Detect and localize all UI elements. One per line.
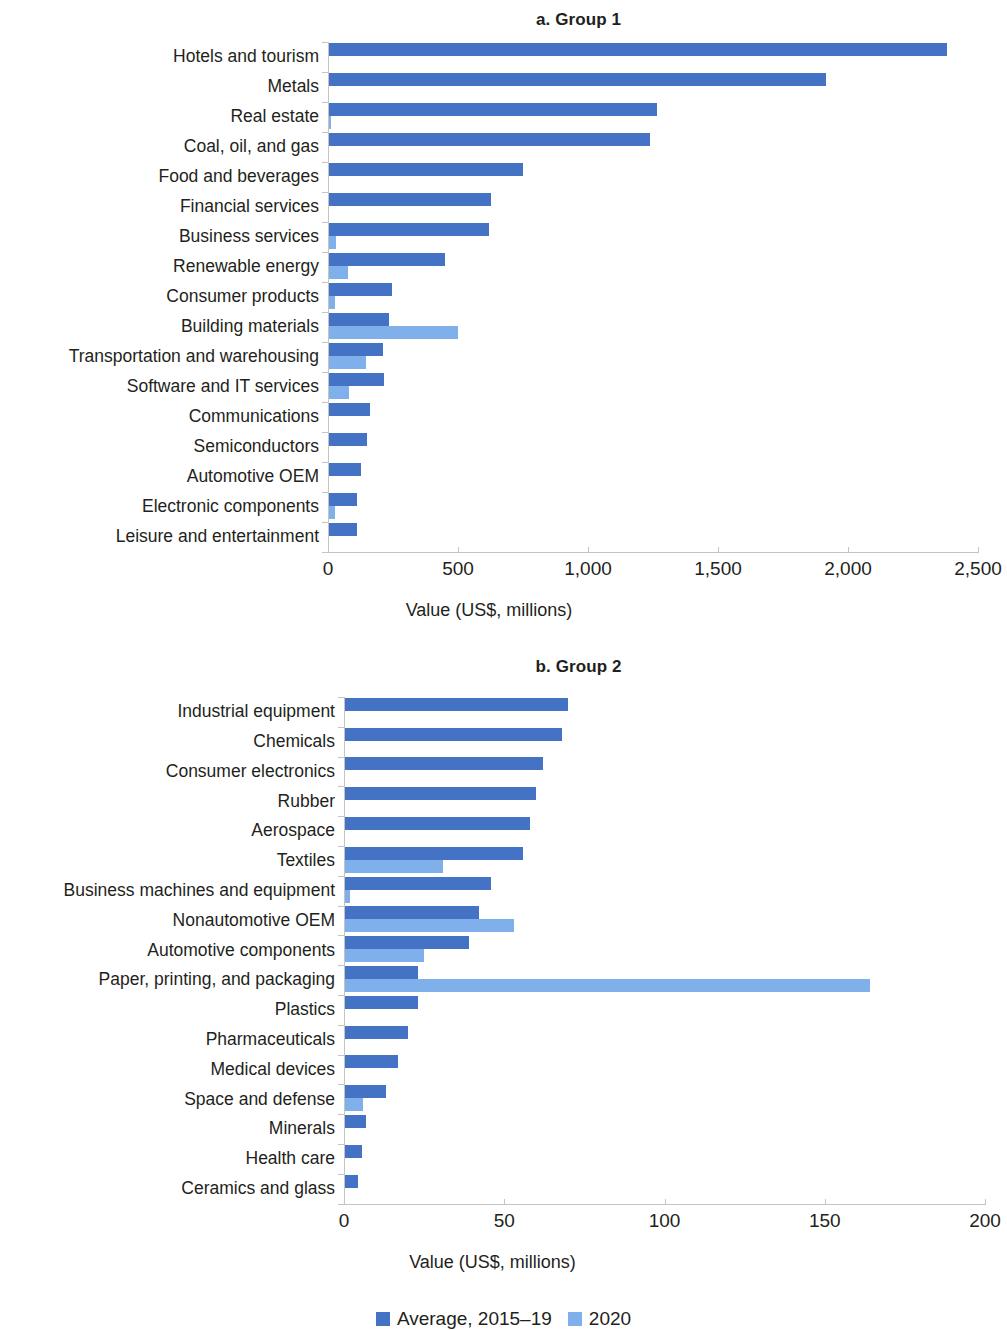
bar-average-2015-19 — [344, 757, 543, 770]
bar-group — [344, 1025, 1007, 1055]
category-label: Leisure and entertainment — [0, 522, 328, 552]
category-label: Minerals — [0, 1114, 344, 1144]
bar-row: Software and IT services — [0, 372, 1007, 402]
category-tick — [338, 1055, 344, 1056]
bar-group — [328, 222, 1007, 252]
category-tick — [322, 132, 328, 133]
category-tick — [338, 1114, 344, 1115]
value-axis-tick — [665, 1199, 666, 1205]
bar-average-2015-19 — [344, 817, 530, 830]
category-tick — [338, 906, 344, 907]
category-label: Automotive OEM — [0, 462, 328, 492]
category-label: Semiconductors — [0, 432, 328, 462]
value-axis-tick-label: 200 — [969, 1210, 1001, 1232]
category-label: Rubber — [0, 786, 344, 816]
value-axis-tick — [458, 547, 459, 553]
bar-row: Electronic components — [0, 492, 1007, 522]
bar-row: Space and defense — [0, 1084, 1007, 1114]
bar-group — [344, 846, 1007, 876]
category-label: Software and IT services — [0, 372, 328, 402]
category-tick — [322, 372, 328, 373]
value-axis-line — [328, 552, 978, 553]
chart-legend: Average, 2015–192020 — [0, 1309, 1007, 1328]
legend-label: 2020 — [589, 1309, 631, 1328]
category-tick — [322, 282, 328, 283]
bar-group — [344, 1144, 1007, 1174]
category-tick — [322, 222, 328, 223]
bar-row: Business services — [0, 222, 1007, 252]
bar-2020 — [344, 919, 514, 932]
value-axis-tick-label: 0 — [323, 558, 334, 580]
bar-row: Health care — [0, 1144, 1007, 1174]
category-label: Real estate — [0, 102, 328, 132]
bar-group — [328, 462, 1007, 492]
bar-average-2015-19 — [344, 1145, 362, 1158]
bar-2020 — [344, 979, 870, 992]
bar-average-2015-19 — [344, 966, 418, 979]
category-label: Coal, oil, and gas — [0, 132, 328, 162]
value-axis-group-1: 05001,0001,5002,0002,500 — [0, 552, 1007, 592]
bar-average-2015-19 — [344, 1175, 358, 1188]
legend-item-avg[interactable]: Average, 2015–19 — [376, 1309, 552, 1328]
bar-row: Business machines and equipment — [0, 876, 1007, 906]
bar-group — [344, 1084, 1007, 1114]
bar-group — [344, 1055, 1007, 1085]
category-tick — [322, 342, 328, 343]
bar-group — [344, 697, 1007, 727]
bar-average-2015-19 — [328, 313, 389, 326]
bar-average-2015-19 — [328, 253, 445, 266]
category-tick — [322, 522, 328, 523]
category-label: Financial services — [0, 192, 328, 222]
category-label: Industrial equipment — [0, 697, 344, 727]
bar-row: Food and beverages — [0, 162, 1007, 192]
bar-average-2015-19 — [344, 698, 568, 711]
category-label: Consumer products — [0, 282, 328, 312]
category-tick — [338, 965, 344, 966]
bar-row: Automotive components — [0, 935, 1007, 965]
bar-group — [328, 252, 1007, 282]
bar-2020 — [344, 949, 424, 962]
category-tick — [338, 1025, 344, 1026]
value-axis-tick-label: 1,000 — [564, 558, 612, 580]
bar-average-2015-19 — [344, 877, 491, 890]
bar-average-2015-19 — [328, 223, 489, 236]
bar-2020 — [344, 860, 443, 873]
chart-title-group-1: a. Group 1 — [0, 0, 1007, 30]
bar-group — [328, 102, 1007, 132]
legend-item-y2020[interactable]: 2020 — [568, 1309, 631, 1328]
bar-row: Real estate — [0, 102, 1007, 132]
category-tick — [338, 1144, 344, 1145]
category-tick — [338, 876, 344, 877]
bar-row: Paper, printing, and packaging — [0, 965, 1007, 995]
category-label: Textiles — [0, 846, 344, 876]
bar-row: Metals — [0, 72, 1007, 102]
category-label: Business machines and equipment — [0, 876, 344, 906]
bar-2020 — [344, 1098, 363, 1111]
value-axis-tick-label: 1,500 — [694, 558, 742, 580]
x-axis-title-group-1: Value (US$, millions) — [0, 600, 978, 621]
bar-average-2015-19 — [328, 43, 947, 56]
bar-average-2015-19 — [328, 523, 357, 536]
bar-group — [328, 342, 1007, 372]
bar-row: Leisure and entertainment — [0, 522, 1007, 552]
category-tick — [338, 757, 344, 758]
category-tick — [322, 402, 328, 403]
bar-row: Consumer electronics — [0, 757, 1007, 787]
category-label: Nonautomotive OEM — [0, 906, 344, 936]
bar-row: Industrial equipment — [0, 697, 1007, 727]
bar-row: Rubber — [0, 786, 1007, 816]
bar-group — [328, 432, 1007, 462]
bar-2020 — [328, 236, 336, 249]
category-label: Hotels and tourism — [0, 42, 328, 72]
category-label: Space and defense — [0, 1084, 344, 1114]
bar-group — [344, 965, 1007, 995]
value-axis-tick-label: 2,500 — [954, 558, 1002, 580]
bar-group — [328, 522, 1007, 552]
bar-group — [344, 786, 1007, 816]
bar-row: Medical devices — [0, 1055, 1007, 1085]
chart-title-group-2: b. Group 2 — [0, 652, 1007, 677]
value-axis-tick-label: 100 — [649, 1210, 681, 1232]
category-label: Paper, printing, and packaging — [0, 965, 344, 995]
category-tick — [322, 192, 328, 193]
category-label: Plastics — [0, 995, 344, 1025]
